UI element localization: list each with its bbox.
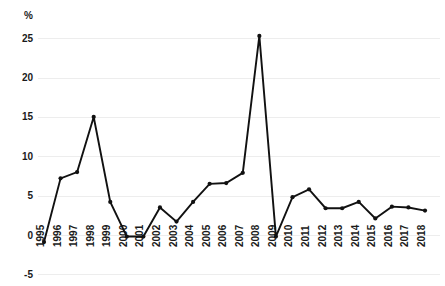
data-point-marker	[75, 170, 79, 174]
line-chart: -50510152025 % 1995199619971998199920002…	[0, 0, 445, 286]
x-axis-tick-label: 2017	[399, 224, 410, 247]
data-point-marker	[125, 234, 129, 238]
x-axis-tick-label: 2013	[333, 224, 344, 247]
x-axis-tick-label: 2014	[350, 224, 361, 247]
data-point-marker	[274, 234, 278, 238]
y-axis-tick-label: 0	[27, 230, 33, 241]
x-axis-tick-label: 2004	[184, 224, 195, 247]
x-axis-tick-label: 2015	[366, 224, 377, 247]
data-point-marker	[307, 187, 311, 191]
data-point-marker	[373, 216, 377, 220]
x-axis-tick-label: 2007	[234, 224, 245, 247]
x-axis-tick-label: 1998	[85, 224, 96, 247]
data-point-marker	[42, 240, 46, 244]
y-axis-tick-label: 5	[27, 190, 33, 201]
x-axis-tick-label: 2011	[300, 225, 311, 247]
data-point-marker	[174, 220, 178, 224]
x-axis-tick-label: 2008	[250, 224, 261, 247]
x-axis-tick-label: 2016	[383, 224, 394, 247]
data-point-marker	[208, 182, 212, 186]
x-axis-tick-label: 2003	[168, 224, 179, 247]
y-axis-tick-label: -5	[24, 269, 33, 280]
data-series-line	[44, 36, 425, 242]
y-axis-tick-label: 20	[22, 72, 34, 83]
data-point-marker	[191, 200, 195, 204]
data-point-marker	[406, 205, 410, 209]
chart-canvas: -50510152025 % 1995199619971998199920002…	[0, 0, 445, 286]
data-point-marker	[390, 205, 394, 209]
x-axis-tick-label: 2010	[283, 224, 294, 247]
data-point-marker	[357, 200, 361, 204]
x-axis-tick-label: 2018	[416, 224, 427, 247]
x-axis-tick-label: 2002	[151, 224, 162, 247]
x-axis-tick-label: 2005	[201, 224, 212, 247]
y-axis-tick-label: 10	[22, 151, 34, 162]
data-point-marker	[324, 206, 328, 210]
data-point-marker	[141, 234, 145, 238]
y-axis-tick-label: 15	[22, 111, 34, 122]
data-point-marker	[224, 181, 228, 185]
data-point-marker	[108, 200, 112, 204]
x-axis-tick-label: 1997	[68, 224, 79, 247]
x-axis-tick-label: 2012	[317, 224, 328, 247]
x-axis-tick-label: 1996	[52, 224, 63, 247]
data-point-marker	[158, 205, 162, 209]
y-axis-tick-label: 25	[22, 33, 34, 44]
x-axis-tick-label: 1999	[101, 224, 112, 247]
data-point-marker	[241, 171, 245, 175]
data-point-marker	[92, 115, 96, 119]
data-point-marker	[257, 34, 261, 38]
data-point-marker	[423, 209, 427, 213]
x-axis-tick-label: 2006	[217, 224, 228, 247]
data-point-marker	[290, 195, 294, 199]
data-point-marker	[340, 206, 344, 210]
y-axis-unit-label: %	[24, 10, 33, 21]
data-point-marker	[58, 176, 62, 180]
y-axis-tick-labels: -50510152025	[22, 33, 34, 280]
